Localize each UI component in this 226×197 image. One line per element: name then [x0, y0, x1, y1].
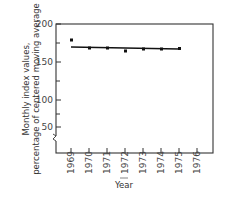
svg-text:1973: 1973 — [138, 151, 148, 174]
svg-text:1970: 1970 — [84, 151, 94, 174]
svg-text:1976: 1976 — [192, 151, 202, 174]
x-tick-labels: 1969 1970 1971 1972 1973 1974 1975 1976 — [66, 151, 202, 174]
y-ticks — [56, 24, 61, 127]
x-axis-title: Year — [114, 180, 134, 190]
y-axis-title-line2: percentage of centered moving average — [31, 3, 41, 175]
svg-text:1974: 1974 — [156, 151, 166, 174]
plot-frame — [56, 24, 213, 153]
chart: 200 150 100 50 1969 1970 1971 1972 1973 … — [0, 0, 226, 197]
y-tick-label: 50 — [42, 122, 54, 132]
svg-text:1971: 1971 — [102, 151, 112, 174]
svg-text:1975: 1975 — [174, 151, 184, 174]
y-axis-title-line1: Monthly index values, — [21, 42, 31, 135]
svg-text:1972: 1972 — [120, 151, 130, 174]
data-points — [70, 39, 181, 53]
svg-text:1969: 1969 — [66, 151, 76, 174]
